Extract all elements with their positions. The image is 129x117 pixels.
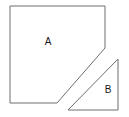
shape-b-label: B <box>105 84 112 95</box>
figure-svg-canvas: A B <box>0 0 129 117</box>
shape-a-label: A <box>45 36 52 47</box>
geometry-figure: A B <box>0 0 129 117</box>
